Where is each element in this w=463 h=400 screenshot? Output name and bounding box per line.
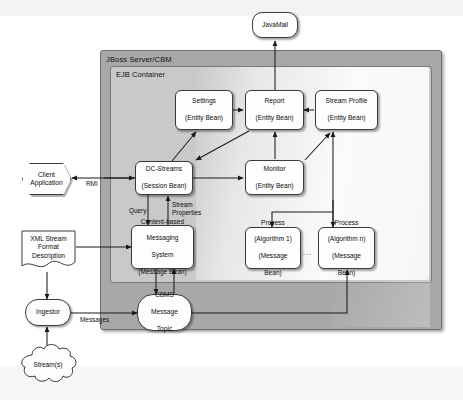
edge-label-stream-properties-line1: Stream: [172, 201, 193, 208]
node-monitor[interactable]: Monitor (Entity Bean): [245, 160, 304, 195]
node-process-algorithm-n[interactable]: Process (Algorithm n) (Message Bean): [318, 227, 375, 269]
node-xml-desc-line2: Format: [38, 243, 59, 250]
node-stream-profile-line2: (Entity Bean): [324, 114, 370, 122]
node-process-1-line1: Process: [252, 219, 294, 227]
node-settings-line2: (Entity Bean): [183, 114, 225, 122]
node-client-application-line1: Client: [38, 171, 55, 178]
node-cbms-line2: Messaging: [136, 234, 188, 242]
edge-dcstreams-to-settings: [172, 132, 196, 161]
diagram-canvas: JBoss Server/CBM EJB Container: [0, 0, 463, 400]
node-settings[interactable]: Settings (Entity Bean): [175, 90, 233, 130]
node-content-based-messaging-system[interactable]: Content-based Messaging System (Message …: [131, 225, 194, 269]
node-cbms-topic-line1: CBMS: [149, 291, 180, 299]
edge-label-stream-properties-line2: Properties: [172, 209, 201, 216]
node-cbms-topic-line2: Message: [149, 308, 180, 316]
node-xml-desc-line3: Description: [32, 252, 65, 259]
node-report-line1: Report: [253, 97, 295, 105]
node-cbms-line1: Content-based: [136, 218, 188, 226]
node-javamail[interactable]: JavaMail: [252, 12, 298, 38]
node-process-algorithm-1[interactable]: Process (Algorithm 1) (Message Bean): [245, 227, 301, 269]
node-report-line2: (Entity Bean): [253, 114, 295, 122]
edge-label-messages: Messages: [80, 316, 109, 324]
node-client-application[interactable]: Client Application: [22, 163, 71, 195]
node-stream-profile-line1: Stream Profile: [324, 97, 370, 105]
node-xml-stream-format-description[interactable]: XML Stream Format Description: [20, 228, 77, 272]
node-javamail-label: JavaMail: [260, 21, 290, 29]
node-ingestor-label: Ingestor: [34, 308, 62, 316]
node-cbms-line3: System: [136, 251, 188, 259]
node-stream-profile[interactable]: Stream Profile (Entity Bean): [315, 90, 378, 130]
edge-label-rmi: RMI: [86, 180, 98, 188]
node-dc-streams-line2: (Session Bean): [139, 182, 188, 190]
connector-layer: [0, 0, 463, 400]
node-client-application-line2: Application: [30, 179, 62, 186]
edge-label-query: Query: [129, 207, 146, 215]
node-process-1-line2: (Algorithm 1): [252, 235, 294, 243]
node-cbms-message-topic[interactable]: CBMS Message Topic: [137, 294, 192, 331]
node-process-1-line3: (Message: [252, 252, 294, 260]
node-ingestor[interactable]: Ingestor: [25, 299, 71, 326]
node-dc-streams[interactable]: DC-Streams (Session Bean): [135, 161, 193, 195]
node-streams-label: Stream(s): [34, 361, 63, 368]
node-settings-line1: Settings: [183, 97, 225, 105]
node-process-n-line1: Process: [326, 219, 368, 227]
edge-monitor-to-streamprofile: [305, 133, 330, 160]
node-dc-streams-line1: DC-Streams: [139, 165, 188, 173]
edge-label-stream-properties: Stream Properties: [172, 201, 212, 216]
node-report[interactable]: Report (Entity Bean): [245, 90, 304, 130]
node-cbms-topic-line3: Topic: [149, 325, 180, 333]
node-process-n-line3: (Message: [326, 252, 368, 260]
node-xml-desc-line1: XML Stream: [30, 235, 66, 242]
process-ellipsis: ...: [303, 249, 312, 256]
node-cbms-line4: (Message Bean): [136, 268, 188, 276]
edge-report-to-dcstreams: [196, 131, 249, 160]
node-monitor-line1: Monitor: [253, 165, 295, 173]
node-process-1-line4: Bean): [252, 269, 294, 277]
node-process-n-line2: (Algorithm n): [326, 235, 368, 243]
node-streams[interactable]: Stream(s): [16, 342, 80, 386]
node-monitor-line2: (Entity Bean): [253, 182, 295, 190]
node-process-n-line4: Bean): [326, 269, 368, 277]
